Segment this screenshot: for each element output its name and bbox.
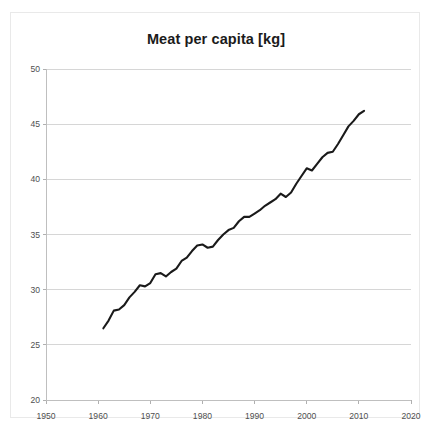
data-series-group: [103, 111, 364, 328]
x-axis-tick-label: 1980: [193, 411, 212, 419]
x-axis-tick-label: 2000: [297, 411, 316, 419]
y-axis-tick-label: 50: [30, 64, 40, 74]
y-axis-tick-labels: 20253035404550: [30, 64, 40, 405]
y-axis-tick-label: 20: [30, 395, 40, 405]
x-axis-tick-label: 2010: [349, 411, 368, 419]
x-axis-tick-label: 1950: [36, 411, 55, 419]
y-axis-tick-label: 30: [30, 285, 40, 295]
x-axis-tick-label: 1970: [141, 411, 160, 419]
y-axis-tick-label: 45: [30, 119, 40, 129]
x-axis-tick-label: 1960: [89, 411, 108, 419]
x-axis-tick-label: 2020: [401, 411, 420, 419]
x-axis-tick-label: 1990: [245, 411, 264, 419]
line-chart-plot: 20253035404550 1950196019701980199020002…: [11, 13, 421, 419]
chart-container: Meat per capita [kg] 20253035404550 1950…: [10, 12, 420, 418]
y-axis-tick-label: 35: [30, 230, 40, 240]
x-axis-tick-labels: 19501960197019801990200020102020: [36, 411, 420, 419]
data-line-meat-per-capita: [103, 111, 364, 328]
y-axis-tick-label: 40: [30, 174, 40, 184]
y-axis-tick-label: 25: [30, 340, 40, 350]
